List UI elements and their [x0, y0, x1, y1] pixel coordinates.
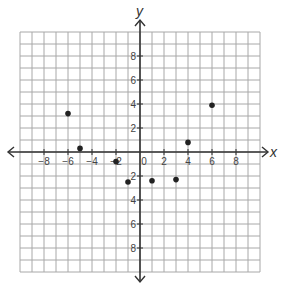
- data-point: [125, 179, 131, 185]
- y-tick-label: 4: [130, 99, 136, 110]
- x-tick-label: 4: [185, 156, 191, 167]
- y-tick-label: 2: [130, 171, 136, 182]
- y-axis-label: y: [135, 3, 144, 19]
- coordinate-plane: −8−6−4−20246886422468 x y: [0, 0, 284, 290]
- y-tick-label: 6: [130, 75, 136, 86]
- x-tick-label: 6: [209, 156, 215, 167]
- data-point: [173, 177, 179, 183]
- data-point: [209, 102, 215, 108]
- data-point: [65, 111, 71, 117]
- data-point: [149, 178, 155, 184]
- y-tick-label: 2: [130, 123, 136, 134]
- x-tick-label: 0: [141, 156, 147, 167]
- y-tick-label: 8: [130, 51, 136, 62]
- y-tick-label: 6: [130, 219, 136, 230]
- axes: [8, 20, 268, 282]
- x-tick-label: −8: [38, 156, 50, 167]
- y-tick-label: 8: [130, 243, 136, 254]
- x-axis-label: x: [269, 144, 278, 160]
- data-point: [185, 140, 191, 146]
- x-tick-label: −4: [86, 156, 98, 167]
- data-point: [77, 146, 83, 152]
- x-tick-label: 2: [161, 156, 167, 167]
- x-tick-label: 8: [233, 156, 239, 167]
- data-point: [113, 159, 119, 165]
- x-tick-label: −6: [62, 156, 74, 167]
- y-tick-label: 4: [130, 195, 136, 206]
